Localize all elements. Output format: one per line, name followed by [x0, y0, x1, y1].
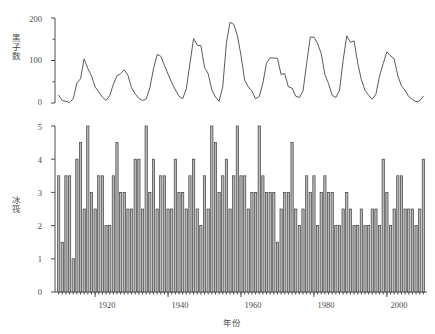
bar: [116, 143, 118, 292]
bar: [105, 226, 107, 292]
bar: [408, 209, 410, 292]
bar: [244, 176, 246, 292]
bar: [76, 159, 78, 292]
bar: [265, 192, 267, 292]
bar: [346, 192, 348, 292]
bar: [240, 176, 242, 292]
bar: [134, 159, 136, 292]
bar: [247, 209, 249, 292]
bar: [87, 126, 89, 292]
bar: [342, 209, 344, 292]
bar: [192, 159, 194, 292]
bar: [200, 226, 202, 292]
bar: [320, 192, 322, 292]
bar: [207, 209, 209, 292]
bar: [156, 209, 158, 292]
bar: [335, 226, 337, 292]
bar: [368, 226, 370, 292]
bar: [258, 126, 260, 292]
bar: [141, 209, 143, 292]
bar: [171, 209, 173, 292]
bar: [327, 192, 329, 292]
bar: [291, 143, 293, 292]
bar: [225, 159, 227, 292]
bar: [189, 176, 191, 292]
bar: [94, 209, 96, 292]
bar: [196, 209, 198, 292]
bar: [284, 192, 286, 292]
bar: [90, 192, 92, 292]
bar: [149, 192, 151, 292]
bar: [371, 209, 373, 292]
bar: [357, 226, 359, 292]
bar: [269, 192, 271, 292]
bar: [120, 192, 122, 292]
bar: [309, 192, 311, 292]
bar: [422, 159, 424, 292]
bar: [83, 209, 85, 292]
bar: [276, 242, 278, 292]
bar: [382, 159, 384, 292]
bar: [254, 192, 256, 292]
bar: [375, 209, 377, 292]
bar: [101, 176, 103, 292]
xtick-1980: 1980: [306, 300, 346, 310]
bar: [313, 176, 315, 292]
bar: [302, 209, 304, 292]
bar: [236, 126, 238, 292]
x-axis-label: 年份: [223, 316, 241, 328]
bar: [280, 209, 282, 292]
bar: [233, 176, 235, 292]
bar: [130, 209, 132, 292]
bar: [353, 226, 355, 292]
bar: [174, 159, 176, 292]
bar: [400, 176, 402, 292]
bar: [404, 209, 406, 292]
bar: [419, 209, 421, 292]
xtick-1920: 1920: [87, 300, 127, 310]
bar: [98, 176, 100, 292]
bar: [123, 192, 125, 292]
bar: [182, 192, 184, 292]
figure-root: 黑子数 200 100 0 冰筏 5 4 3 2 1 0 1920 1940 1…: [0, 0, 435, 334]
bar: [338, 226, 340, 292]
bar: [109, 226, 111, 292]
bar: [127, 209, 129, 292]
bar: [306, 176, 308, 292]
bar: [411, 209, 413, 292]
bar: [65, 176, 67, 292]
bar: [393, 209, 395, 292]
bar: [178, 192, 180, 292]
xtick-1940: 1940: [160, 300, 200, 310]
bar: [58, 176, 60, 292]
bar: [386, 192, 388, 292]
bar: [211, 126, 213, 292]
xtick-2000: 2000: [379, 300, 419, 310]
bar: [360, 209, 362, 292]
bar: [298, 226, 300, 292]
bar: [378, 226, 380, 292]
bar: [262, 176, 264, 292]
bar: [324, 176, 326, 292]
bar: [229, 209, 231, 292]
bar: [331, 192, 333, 292]
bar: [222, 176, 224, 292]
bar: [145, 126, 147, 292]
bar: [138, 159, 140, 292]
bar: [163, 176, 165, 292]
bar: [61, 242, 63, 292]
bar: [295, 209, 297, 292]
bar: [415, 226, 417, 292]
bar: [389, 226, 391, 292]
bar: [79, 143, 81, 292]
bar: [214, 143, 216, 292]
bar: [316, 226, 318, 292]
bar: [397, 176, 399, 292]
bar: [68, 176, 70, 292]
bar: [273, 192, 275, 292]
bar: [251, 192, 253, 292]
bar: [152, 159, 154, 292]
bar: [167, 209, 169, 292]
bar: [72, 259, 74, 292]
bar: [112, 176, 114, 292]
